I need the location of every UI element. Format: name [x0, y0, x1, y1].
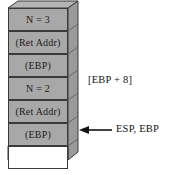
stack-cell: N = 2 [8, 77, 68, 100]
stack-top-face [8, 1, 78, 8]
stack-side-face [68, 1, 78, 160]
stack-frame-diagram: N = 3 (Ret Addr) (EBP) N = 2 (Ret Addr) … [0, 0, 172, 175]
stack-cell: (Ret Addr) [8, 31, 68, 54]
stack-cell: (Ret Addr) [8, 100, 68, 123]
stack-cells: N = 3 (Ret Addr) (EBP) N = 2 (Ret Addr) … [8, 8, 68, 146]
esp-ebp-annotation: ESP, EBP [116, 123, 159, 134]
ebp-offset-annotation: [EBP + 8] [88, 74, 132, 85]
stack-side-dividers [68, 24, 78, 146]
stack-cell: (EBP) [8, 123, 68, 146]
stack-cell: N = 3 [8, 8, 68, 31]
stack-cell: (EBP) [8, 54, 68, 77]
left-arrow-icon [78, 124, 114, 136]
stack-cell-empty [8, 146, 68, 169]
